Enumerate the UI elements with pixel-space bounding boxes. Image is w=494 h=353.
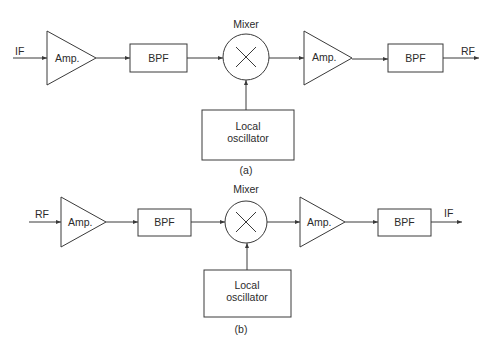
amplifier-label: Amp. [312,51,337,63]
mixer-label: Mixer [233,18,259,30]
mixer-label: Mixer [233,183,259,195]
output-label: IF [444,207,453,219]
amplifier-1: Amp. [61,197,106,247]
diagram-b: RF Amp. BPF Mixer Local oscillator (b) A [29,183,462,335]
bandpass-filter-2: BPF [388,44,443,72]
amplifier-1: Amp. [47,31,96,85]
oscillator-label-line1: Local [235,120,260,132]
diagram-a: IF Amp. BPF Mixer Local oscillator (a) [13,18,479,176]
oscillator-label-line1: Local [234,279,259,291]
filter-label: BPF [148,52,168,64]
input-label: IF [15,45,24,57]
amplifier-label: Amp. [55,52,80,64]
block-diagram-canvas: IF Amp. BPF Mixer Local oscillator (a) [0,0,494,353]
amplifier-2: Amp. [300,197,345,247]
bandpass-filter-2: BPF [378,209,431,236]
oscillator-label-line2: oscillator [226,291,268,303]
input-label: RF [35,208,49,220]
filter-label: BPF [154,216,174,228]
filter-label: BPF [405,52,425,64]
mixer: Mixer [225,183,267,243]
amplifier-2: Amp. [304,31,352,85]
bandpass-filter-1: BPF [130,44,187,72]
amplifier-label: Amp. [68,216,93,228]
caption-b: (b) [235,323,248,335]
filter-label: BPF [394,216,414,228]
caption-a: (a) [240,164,253,176]
mixer: Mixer [223,18,269,80]
local-oscillator: Local oscillator [204,270,291,317]
oscillator-label-line2: oscillator [227,132,269,144]
amplifier-label: Amp. [307,216,332,228]
local-oscillator: Local oscillator [202,110,294,160]
bandpass-filter-1: BPF [138,209,191,236]
output-label: RF [461,45,475,57]
